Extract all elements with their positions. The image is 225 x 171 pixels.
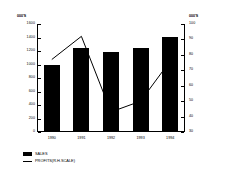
legend-item-sales: SALES	[23, 150, 75, 157]
x-tick-label: 1991	[77, 137, 85, 141]
left-tick	[38, 132, 41, 133]
left-tick-label: 800	[29, 76, 35, 80]
x-tick-label: 1994	[166, 137, 174, 141]
legend-swatch-line-icon	[23, 159, 32, 163]
left-tick-label: 400	[29, 103, 35, 107]
x-tick-label: 1992	[107, 137, 115, 141]
right-axis-unit-header: 000'S	[189, 15, 198, 19]
x-tick-label: 1993	[136, 137, 144, 141]
x-axis-tick-labels: 19901991199219931994	[37, 137, 185, 145]
left-tick-label: 1000	[27, 63, 35, 67]
left-tick-label: 200	[29, 117, 35, 121]
left-axis-unit-header: 000'S	[17, 15, 26, 19]
right-tick-label: 30	[189, 130, 193, 134]
line-series-profits	[37, 24, 185, 132]
right-tick	[181, 132, 184, 133]
chart-legend: SALES PROFITS(R.H.SCALE)	[23, 150, 75, 164]
legend-item-profits: PROFITS(R.H.SCALE)	[23, 157, 75, 164]
right-tick-label: 40	[189, 115, 193, 119]
left-tick-label: 1200	[27, 49, 35, 53]
left-axis-tick-labels: 16001400120010008006004002000	[14, 24, 35, 132]
plot-area	[37, 24, 185, 132]
legend-label-profits: PROFITS(R.H.SCALE)	[35, 159, 75, 163]
legend-swatch-bar-icon	[23, 152, 32, 156]
right-tick-label: 90	[189, 38, 193, 42]
left-tick-label: 1600	[27, 22, 35, 26]
right-tick-label: 100	[189, 22, 195, 26]
left-tick-label: 600	[29, 90, 35, 94]
left-tick-label: 0	[33, 130, 35, 134]
chart-figure: 000'S 000'S 1600140012001000800600400200…	[0, 0, 225, 171]
left-tick-label: 1400	[27, 36, 35, 40]
right-tick-label: 70	[189, 68, 193, 72]
right-tick-label: 50	[189, 99, 193, 103]
right-tick-label: 60	[189, 84, 193, 88]
x-tick-label: 1990	[48, 137, 56, 141]
right-tick-label: 80	[189, 53, 193, 57]
right-axis-tick-labels: 10090807060504030	[189, 24, 209, 132]
legend-label-sales: SALES	[35, 152, 48, 156]
